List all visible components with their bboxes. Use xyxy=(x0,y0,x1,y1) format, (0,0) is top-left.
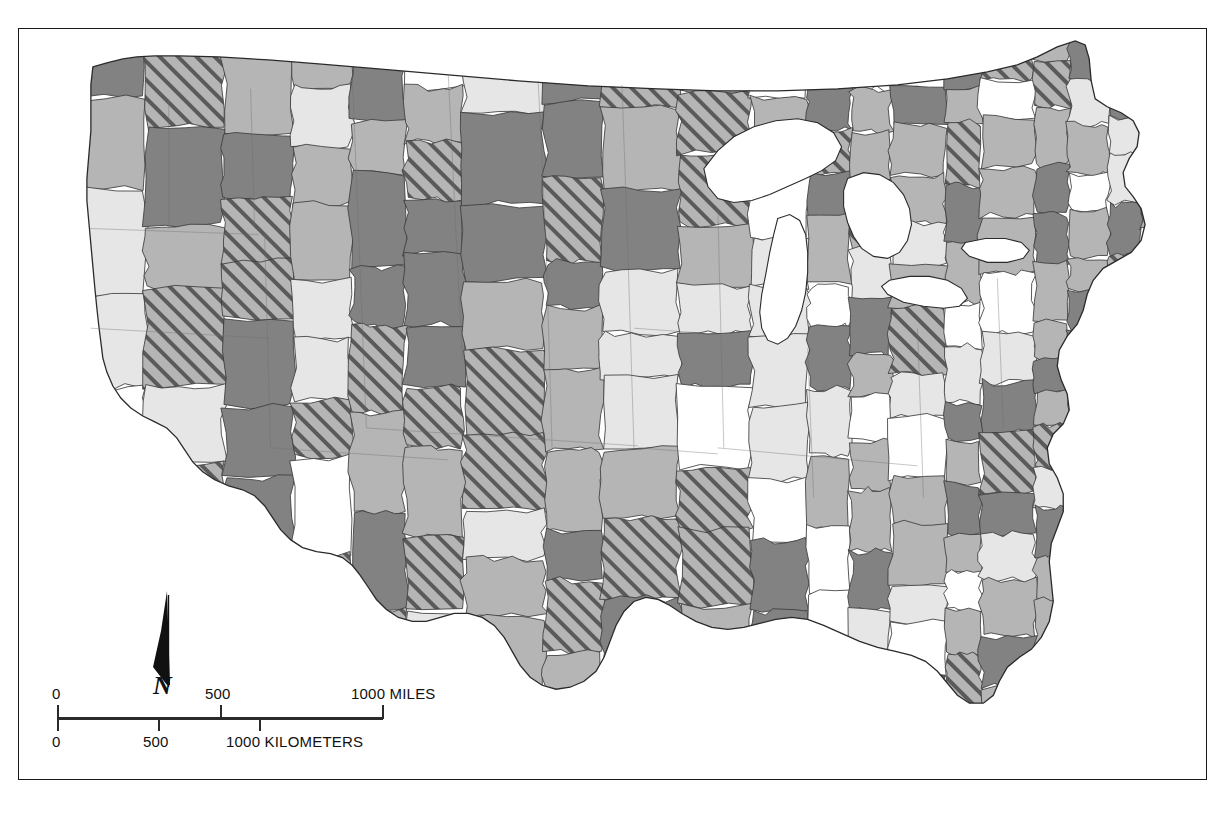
economic-area-region xyxy=(542,176,604,265)
economic-area-region xyxy=(542,304,603,371)
economic-area-region xyxy=(806,385,852,458)
economic-area-region xyxy=(1032,61,1071,109)
economic-area-region xyxy=(599,331,683,381)
scale-label-km-unit: 1000 KILOMETERS xyxy=(226,733,363,750)
economic-area-region xyxy=(1068,172,1111,212)
economic-area-region xyxy=(944,302,982,349)
map-page: N 0 500 1000 MILES 0 500 1000 KILOMETERS xyxy=(0,0,1232,814)
economic-area-region xyxy=(848,393,893,443)
economic-area-region xyxy=(542,100,605,180)
economic-area-region xyxy=(142,224,226,292)
economic-area-region xyxy=(1032,162,1071,214)
economic-area-region xyxy=(677,527,753,608)
economic-area-region xyxy=(463,508,547,562)
economic-area-region xyxy=(348,119,407,175)
economic-area-region xyxy=(849,86,894,135)
economic-area-region xyxy=(977,78,1037,120)
economic-area-region xyxy=(806,525,850,597)
scale-tick-km-0 xyxy=(57,717,59,731)
economic-area-region xyxy=(676,223,753,287)
economic-area-region xyxy=(981,378,1038,435)
scale-label-miles-0: 0 xyxy=(52,685,61,702)
economic-area-region xyxy=(889,475,949,527)
economic-area-region xyxy=(600,516,683,601)
economic-area-region xyxy=(221,403,296,478)
economic-area-region xyxy=(888,372,949,419)
economic-area-region xyxy=(944,533,983,574)
economic-area-region xyxy=(979,166,1038,219)
economic-area-region xyxy=(944,570,983,613)
economic-area-region xyxy=(543,259,606,310)
economic-area-region xyxy=(541,367,604,452)
economic-area-region xyxy=(290,454,352,556)
economic-area-region xyxy=(888,520,949,586)
economic-area-region xyxy=(599,268,682,336)
economic-area-region xyxy=(403,84,467,145)
economic-area-region xyxy=(402,139,467,204)
economic-area-region xyxy=(290,84,355,150)
economic-area-region xyxy=(348,323,409,415)
economic-area-region xyxy=(349,265,408,329)
economic-area-region xyxy=(464,347,548,438)
economic-area-region xyxy=(805,325,853,391)
economic-area-region xyxy=(677,330,754,390)
economic-area-region xyxy=(676,384,754,471)
economic-area-region xyxy=(805,456,849,531)
economic-area-region xyxy=(142,127,225,229)
economic-area-region xyxy=(750,537,812,613)
map-frame: N 0 500 1000 MILES 0 500 1000 KILOMETERS xyxy=(18,28,1207,780)
economic-area-region xyxy=(1066,121,1112,176)
scale-label-miles-500: 500 xyxy=(205,685,231,702)
economic-area-region xyxy=(403,535,464,610)
scale-tick-km-500 xyxy=(158,717,160,731)
economic-area-region xyxy=(979,331,1038,385)
economic-area-region xyxy=(1069,207,1112,260)
economic-area-region xyxy=(944,481,983,540)
economic-area-region xyxy=(848,297,893,358)
economic-area-region xyxy=(143,285,228,389)
economic-area-region xyxy=(748,476,811,542)
economic-area-region xyxy=(677,283,753,336)
economic-area-region xyxy=(944,608,981,659)
economic-area-region xyxy=(978,577,1038,638)
economic-area-region xyxy=(848,486,892,552)
economic-area-region xyxy=(945,119,981,189)
economic-area-region xyxy=(402,446,467,539)
economic-area-region xyxy=(291,277,355,341)
economic-area-region xyxy=(348,409,409,516)
economic-area-region xyxy=(543,577,605,657)
economic-area-region xyxy=(888,585,950,625)
economic-area-region xyxy=(890,86,950,125)
economic-area-region xyxy=(944,401,984,441)
economic-area-region xyxy=(604,374,683,452)
economic-area-region xyxy=(944,343,983,405)
economic-area-region xyxy=(221,196,297,264)
economic-area-region xyxy=(461,432,549,512)
economic-area-region xyxy=(748,402,809,482)
economic-area-region xyxy=(222,319,296,409)
economic-area-region xyxy=(888,122,947,178)
economic-area-region xyxy=(221,258,296,320)
economic-area-region xyxy=(402,326,465,387)
economic-area-region xyxy=(848,548,893,614)
economic-area-region xyxy=(979,270,1039,337)
economic-area-region xyxy=(978,429,1036,496)
economic-area-region xyxy=(1033,260,1070,322)
economic-area-region xyxy=(807,284,853,329)
economic-area-region xyxy=(946,439,981,485)
scale-tick-miles-500 xyxy=(220,705,222,719)
scale-bar: 0 500 1000 MILES 0 500 1000 KILOMETERS xyxy=(39,669,419,769)
economic-area-region xyxy=(290,397,353,458)
economic-area-region xyxy=(600,105,683,194)
scale-tick-km-1000 xyxy=(259,717,261,731)
economic-area-region xyxy=(675,467,754,533)
economic-area-region xyxy=(599,446,681,519)
economic-area-region xyxy=(460,112,548,208)
economic-area-region xyxy=(748,334,812,409)
economic-area-region xyxy=(600,187,682,272)
economic-area-region xyxy=(888,413,949,481)
economic-area-region xyxy=(461,278,546,351)
scale-tick-miles-1000 xyxy=(382,705,384,719)
economic-area-region xyxy=(1033,212,1070,267)
scale-label-miles-unit: 1000 MILES xyxy=(351,685,436,702)
